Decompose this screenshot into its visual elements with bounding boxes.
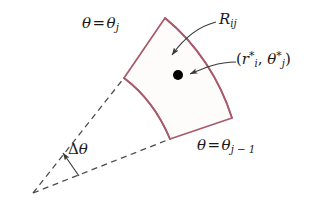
region-subscript: ij — [230, 18, 236, 29]
theta-subscript: j − 1 — [231, 144, 256, 155]
theta-symbol: θ — [82, 14, 91, 32]
equals-sign: = — [206, 136, 222, 154]
comma: , — [258, 50, 263, 68]
theta-symbol-2: θ — [222, 136, 231, 154]
label-theta-lower: θ=θj − 1 — [197, 138, 255, 155]
r-symbol: r — [242, 50, 249, 68]
theta-symbol: θ — [197, 136, 206, 154]
equals-sign: = — [91, 14, 107, 32]
theta-symbol: θ — [79, 140, 88, 158]
theta-subscript: j — [116, 22, 119, 33]
region-symbol: R — [219, 10, 230, 28]
delta-symbol: Δ — [68, 140, 79, 158]
figure-canvas — [0, 0, 316, 212]
theta-symbol: θ — [267, 50, 276, 68]
label-delta-theta: Δθ — [68, 142, 88, 157]
label-theta-upper: θ=θj — [82, 16, 119, 33]
sample-point-dot — [173, 70, 183, 80]
close-paren: ) — [285, 50, 291, 68]
polar-rectangle-figure: θ=θj θ=θj − 1 Rij (r*i, θ*j) Δθ — [0, 0, 316, 212]
theta-symbol-2: θ — [107, 14, 116, 32]
label-region-name: Rij — [219, 12, 237, 29]
label-sample-point: (r*i, θ*j) — [236, 51, 291, 69]
